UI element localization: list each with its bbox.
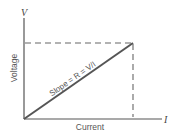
- voltage-current-line: [24, 43, 133, 119]
- y-axis-title: Voltage: [9, 54, 19, 83]
- x-axis-title: Current: [76, 122, 105, 132]
- x-axis-symbol: I: [163, 114, 168, 125]
- ohm-law-diagram: V I Voltage Current Slope = R = V/I: [0, 0, 172, 138]
- y-axis-symbol: V: [21, 7, 29, 18]
- slope-annotation: Slope = R = V/I: [48, 60, 98, 98]
